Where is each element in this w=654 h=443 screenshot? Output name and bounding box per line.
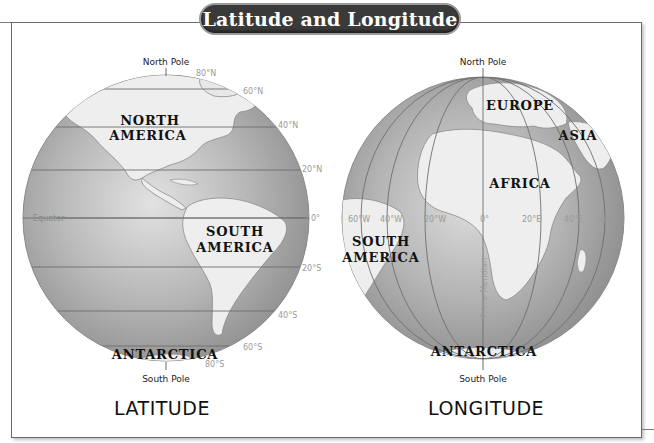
meridian-label-60e: 60°E [596, 215, 615, 224]
lat-south-pole-label: South Pole [142, 374, 190, 384]
equator-label: Equator [33, 214, 65, 223]
longitude-caption: LONGITUDE [428, 397, 544, 419]
meridian-label-20w: 20°W [424, 215, 446, 224]
label-south-america-lon-2: AMERICA [341, 250, 419, 265]
label-south-america-1: SOUTH [206, 224, 264, 239]
lat-north-pole-label: North Pole [143, 57, 190, 67]
meridian-label-40w: 40°W [380, 215, 402, 224]
meridian-label-60w: 60°W [348, 215, 370, 224]
label-africa: AFRICA [488, 176, 551, 191]
label-europe: EUROPE [486, 98, 554, 113]
label-antarctica-lon: ANTARCTICA [430, 344, 537, 359]
parallel-label-40s: 40°S [278, 311, 297, 320]
label-south-america-lon-1: SOUTH [352, 234, 410, 249]
label-north-america-1: NORTH [120, 113, 180, 128]
globes-svg: North Pole South Pole Equator 80°N 60°N … [0, 0, 654, 443]
lon-south-pole-label: South Pole [459, 374, 507, 384]
label-south-america-2: AMERICA [195, 240, 273, 255]
label-antarctica-lat: ANTARCTICA [111, 347, 218, 362]
prime-meridian-label: Prime Meridian [480, 258, 489, 318]
meridian-label-0: 0° [480, 215, 489, 224]
meridian-label-20e: 20°E [522, 215, 541, 224]
parallel-label-0: 0° [311, 214, 320, 223]
label-north-america-2: AMERICA [108, 128, 186, 143]
parallel-label-20n: 20°N [302, 165, 322, 174]
parallel-label-80n: 80°N [196, 69, 216, 78]
parallel-label-20s: 20°S [302, 264, 321, 273]
meridian-label-40e: 40°E [564, 215, 583, 224]
meridian-labels: 60°W 40°W 20°W 0° 20°E 40°E 60°E [348, 215, 615, 224]
label-asia: ASIA [558, 128, 598, 143]
parallel-label-40n: 40°N [278, 121, 298, 130]
parallel-label-60s: 60°S [243, 343, 262, 352]
latitude-caption: LATITUDE [114, 397, 210, 419]
parallel-label-60n: 60°N [243, 87, 263, 96]
lon-north-pole-label: North Pole [460, 57, 507, 67]
